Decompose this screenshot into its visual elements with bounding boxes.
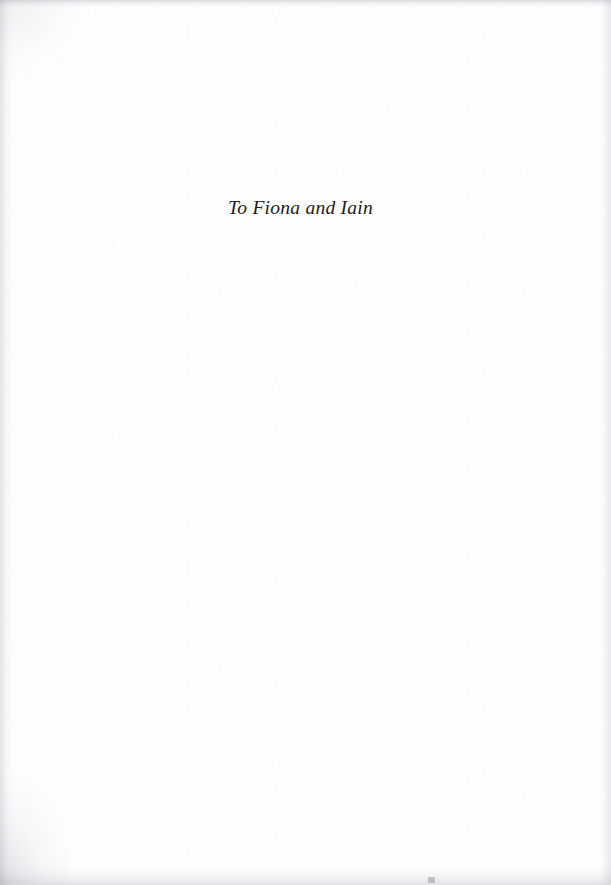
scan-edge-shadow-right-icon xyxy=(597,0,611,885)
scan-corner-shadow-bottom-left-icon xyxy=(0,775,70,885)
scan-edge-shadow-left-icon xyxy=(0,0,14,885)
dedication-page: To Fiona and Iain xyxy=(0,0,611,885)
dedication-text: To Fiona and Iain xyxy=(228,196,373,220)
dedication-block: To Fiona and Iain xyxy=(0,196,611,220)
scan-edge-shadow-bottom-icon xyxy=(0,859,611,885)
paper-grain-texture xyxy=(0,0,611,885)
scan-edge-shadow-top-icon xyxy=(0,0,611,9)
scan-speck-icon xyxy=(428,877,435,883)
scan-corner-shadow-top-left-icon xyxy=(0,0,90,80)
